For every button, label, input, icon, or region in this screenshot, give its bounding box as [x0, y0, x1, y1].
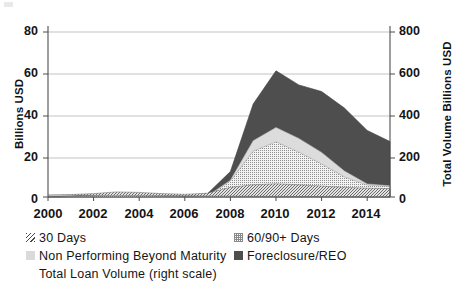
legend-swatch-foreclosure-icon	[234, 251, 243, 260]
legend-item-non-performing-beyond-maturity[interactable]: Non Performing Beyond Maturity	[26, 247, 226, 264]
legend-swatch-60-90-days-icon	[234, 233, 243, 242]
legend-item-60-90-days[interactable]: 60/90+ Days	[234, 229, 320, 246]
legend-swatch-non-performing-icon	[26, 251, 35, 260]
legend-label-total-loan-volume: Total Loan Volume (right scale)	[39, 267, 217, 281]
legend-swatch-30-days-icon	[26, 233, 35, 242]
legend-item-total-loan-volume[interactable]: Total Loan Volume (right scale)	[26, 265, 217, 282]
chart-figure: Billions USD Total Volume Billions USD 0…	[0, 0, 454, 283]
legend-label-30-days: 30 Days	[39, 231, 86, 245]
legend-label-foreclosure-reo: Foreclosure/REO	[247, 249, 347, 263]
legend-label-60-90-days: 60/90+ Days	[247, 231, 320, 245]
legend-item-foreclosure-reo[interactable]: Foreclosure/REO	[234, 247, 347, 264]
legend-label-non-performing-beyond-maturity: Non Performing Beyond Maturity	[39, 249, 226, 263]
legend-item-30-days[interactable]: 30 Days	[26, 229, 86, 246]
legend-swatch-total-loan-volume-icon	[26, 269, 35, 278]
chart-legend: 30 Days 60/90+ Days Non Performing Beyon…	[26, 229, 446, 283]
